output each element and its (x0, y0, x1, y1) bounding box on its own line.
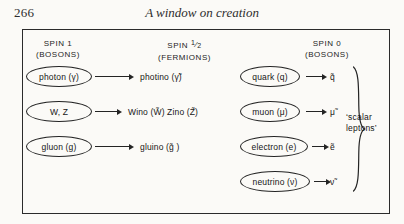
column-heading-spin-0-line2: (BOSONS) (305, 49, 349, 60)
column-heading-spin-1-line2: (BOSONS) (36, 49, 80, 60)
column-heading-spin-half-prefix: SPIN (167, 41, 191, 50)
particle-oval-muon: muon (μ) (240, 101, 300, 122)
scalar-leptons-label-line2: leptons’ (346, 123, 377, 134)
particle-oval-photon: photon (γ) (26, 66, 92, 87)
arrow-electron-to-selectron (312, 136, 329, 157)
arrow-gluon-to-gluino (95, 136, 134, 157)
fraction-one-half: 1⁄2 (191, 37, 202, 51)
running-head-title: A window on creation (0, 5, 404, 21)
column-heading-spin-1-line1: SPIN 1 (44, 39, 73, 48)
fraction-denominator: 2 (197, 42, 201, 49)
scalar-leptons-label: ‘scalar leptons’ (346, 112, 377, 134)
arrow-muon-to-smuon (306, 101, 327, 122)
superpartner-label-sneutrino: ν̃ (330, 171, 334, 192)
column-heading-spin-0: SPIN 0 (BOSONS) (305, 38, 349, 60)
figure-row: neutrino (ν) ν̃ (0, 171, 404, 197)
figure-row: W, Z Wino (W̃) Zino (Z̃) muon (μ) μ̃ (0, 101, 404, 127)
particle-oval-gluon: gluon (g) (26, 136, 92, 157)
figure-row: photon (γ) photino (γ̃) quark (q) q̃ (0, 66, 404, 92)
arrow-photon-to-photino (95, 66, 134, 87)
arrow-neutrino-to-sneutrino (314, 171, 331, 192)
particle-oval-quark: quark (q) (240, 66, 300, 87)
column-heading-spin-0-line1: SPIN 0 (313, 39, 342, 48)
column-heading-spin-half: SPIN 1⁄2 (FERMIONS) (158, 38, 211, 63)
particle-oval-neutrino: neutrino (ν) (240, 171, 310, 192)
superpartner-label-smuon: μ̃ (330, 101, 335, 122)
column-heading-spin-1: SPIN 1 (BOSONS) (36, 38, 80, 60)
fraction-numerator: 1 (191, 39, 195, 46)
arrow-quark-to-squark (306, 66, 327, 87)
column-heading-spin-half-line2: (FERMIONS) (158, 52, 211, 63)
superpartner-label-selectron: ẽ (330, 136, 335, 157)
superpartner-label-squark: q̃ (330, 66, 335, 87)
particle-oval-electron: electron (e) (240, 136, 308, 157)
superpartner-label-gluino: gluino (g̃ ) (140, 136, 179, 157)
arrow-wz-to-wino-zino (95, 101, 122, 122)
scalar-leptons-label-line1: ‘scalar (346, 112, 377, 123)
particle-oval-w-z: W, Z (26, 101, 92, 122)
figure-row: gluon (g) gluino (g̃ ) electron (e) ẽ (0, 136, 404, 162)
book-page: 266 A window on creation SPIN 1 (BOSONS)… (0, 0, 404, 224)
superpartner-label-wino-zino: Wino (W̃) Zino (Z̃) (128, 101, 198, 122)
superpartner-label-photino: photino (γ̃) (140, 66, 182, 87)
